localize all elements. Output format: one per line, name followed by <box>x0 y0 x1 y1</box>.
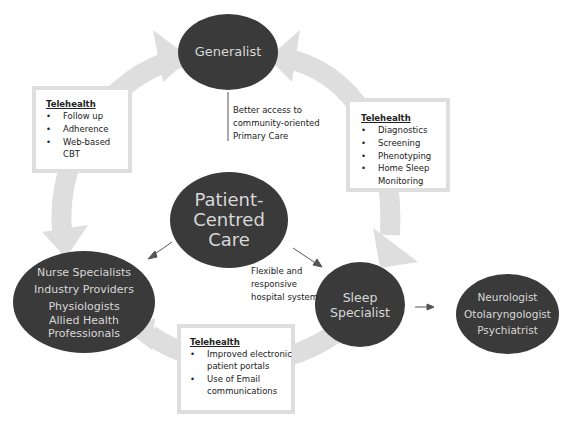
telehealth-list: Diagnostics Screening Phenotyping Home S… <box>361 124 446 188</box>
allied-label-line: Professionals <box>48 328 120 341</box>
node-specialist-referrals: Neurologist Otolaryngologist Psychiatris… <box>456 274 559 354</box>
center-label-line: Patient- <box>194 190 263 210</box>
note-line: Primary Care <box>233 130 320 143</box>
list-item: Screening <box>361 137 446 150</box>
allied-label-line: Industry Providers <box>34 281 134 298</box>
telehealth-box-allied-health: Telehealth Improved electronic patient p… <box>177 324 295 414</box>
list-item: Use of Email communications <box>190 373 287 398</box>
telehealth-list: Improved electronic patient portals Use … <box>190 348 291 398</box>
node-generalist: Generalist <box>178 14 278 90</box>
list-item: Follow up <box>46 110 128 123</box>
node-sleep-specialist: Sleep Specialist <box>315 262 405 347</box>
allied-label-line: Physiologists <box>48 298 119 315</box>
node-patient-centred-care: Patient- Centred Care <box>170 172 288 268</box>
list-item: Web-based CBT <box>46 136 123 162</box>
note-line: hospital system <box>251 291 318 304</box>
note-line: Flexible and <box>251 265 318 278</box>
center-to-allied-arrowhead <box>148 251 157 259</box>
center-to-sleep-arrow <box>293 248 317 264</box>
specialist-label-line: Neurologist <box>478 289 538 306</box>
sleep-label-line: Specialist <box>330 305 390 320</box>
telehealth-title: Telehealth <box>361 113 446 123</box>
node-allied-health: Nurse Specialists Industry Providers Phy… <box>13 251 155 353</box>
center-label-line: Care <box>208 230 250 250</box>
specialist-label-line: Otolaryngologist <box>464 306 551 323</box>
list-item: Phenotyping <box>361 150 446 163</box>
allied-label-line: Allied Health <box>49 315 119 328</box>
sleep-to-specialists-arrowhead <box>427 304 434 310</box>
generalist-label: Generalist <box>195 44 262 60</box>
telehealth-box-sleep-specialist: Telehealth Diagnostics Screening Phenoty… <box>346 98 450 192</box>
telehealth-box-generalist: Telehealth Follow up Adherence Web-based… <box>32 86 132 173</box>
sleep-label-line: Sleep <box>343 290 378 305</box>
note-hospital-system: Flexible and responsive hospital system <box>251 265 318 303</box>
note-line: community-oriented <box>233 117 320 130</box>
list-item: Home Sleep Monitoring <box>361 162 444 188</box>
note-primary-care-access: Better access to community-oriented Prim… <box>233 104 320 142</box>
note-line: Better access to <box>233 104 320 117</box>
telehealth-title: Telehealth <box>46 99 128 109</box>
specialist-label-line: Psychiatrist <box>477 322 538 339</box>
note-line: responsive <box>251 278 318 291</box>
telehealth-list: Follow up Adherence Web-based CBT <box>46 110 128 161</box>
allied-label-line: Nurse Specialists <box>37 264 131 281</box>
list-item: Diagnostics <box>361 124 446 137</box>
center-label-line: Centred <box>193 210 265 230</box>
list-item: Adherence <box>46 123 128 136</box>
telehealth-title: Telehealth <box>190 337 291 347</box>
list-item: Improved electronic patient portals <box>190 348 292 373</box>
